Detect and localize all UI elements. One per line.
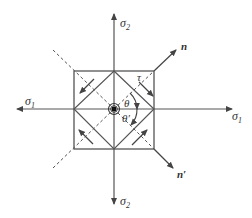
n-label: n <box>181 40 187 52</box>
sigma1-left-label: σ1 <box>25 94 35 110</box>
n-arrow <box>154 50 176 71</box>
theta-arc <box>130 93 137 109</box>
theta-prime-arc <box>131 109 137 125</box>
n-prime-arrow <box>154 149 173 168</box>
theta-label: θ <box>124 97 130 109</box>
tau-label: τ <box>137 71 142 83</box>
sigma2-top-label: σ2 <box>120 16 130 32</box>
n-prime-label: n′ <box>177 168 186 180</box>
theta-prime-label: θ′ <box>122 112 130 124</box>
sigma2-bottom-label: σ2 <box>120 194 130 210</box>
sigma1-right-label: σ1 <box>232 109 242 125</box>
stress-diagram: σ2 σ2 σ1 σ1 n n′ τ θ θ′ <box>0 0 252 218</box>
